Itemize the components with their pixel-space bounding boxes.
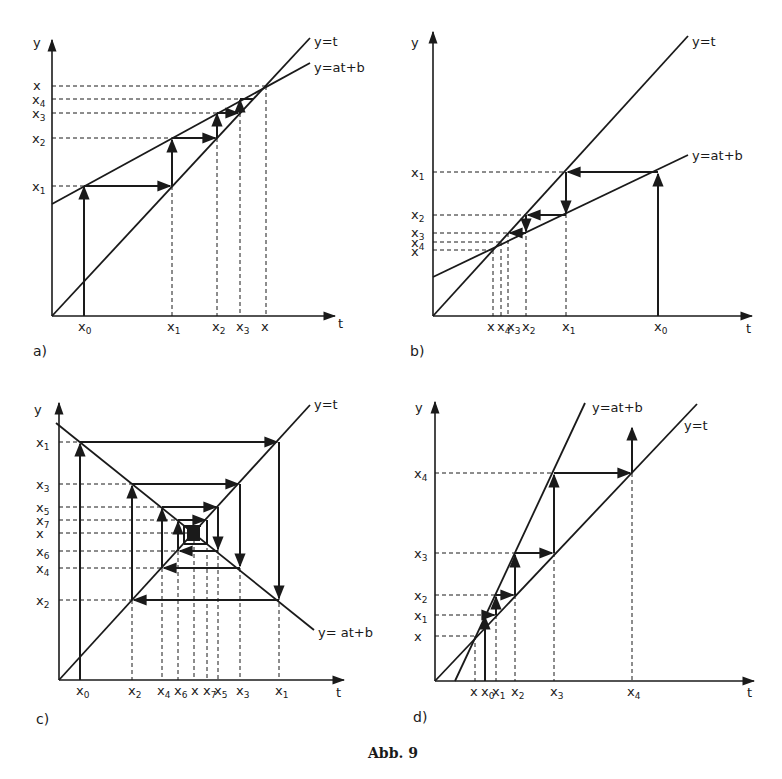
panel-a: y t y=t y=at+b x x4 x3 x2 x1 x0 x1 x2 x3… — [32, 34, 365, 359]
convergence-point — [187, 527, 200, 541]
svg-text:y: y — [34, 402, 42, 417]
line-y-equals-t — [52, 38, 310, 316]
svg-text:x4: x4 — [627, 684, 641, 701]
svg-text:x2: x2 — [212, 319, 225, 336]
y-axis-label: y — [33, 35, 41, 50]
svg-text:x: x — [191, 683, 199, 698]
svg-text:x: x — [470, 684, 478, 699]
svg-text:x: x — [414, 629, 422, 644]
svg-text:x6: x6 — [174, 683, 188, 700]
svg-text:y=at+b: y=at+b — [692, 148, 743, 163]
svg-text:x3: x3 — [507, 319, 520, 336]
svg-text:x4: x4 — [36, 561, 50, 578]
svg-text:x1: x1 — [32, 179, 45, 196]
svg-text:x4: x4 — [414, 466, 428, 483]
svg-text:x0: x0 — [76, 683, 90, 700]
svg-text:y=t: y=t — [684, 418, 708, 433]
svg-text:x6: x6 — [36, 544, 50, 561]
panel-d: y t y=at+b y=t x4 x3 x2 x1 x x x0 x1 x2 … — [413, 400, 754, 725]
panel-label-a: a) — [33, 343, 47, 359]
svg-text:y=t: y=t — [692, 34, 716, 49]
panel-label-d: d) — [413, 709, 427, 725]
svg-text:x2: x2 — [522, 319, 535, 336]
svg-text:x2: x2 — [411, 207, 424, 224]
svg-text:x3: x3 — [414, 546, 427, 563]
svg-text:x3: x3 — [236, 683, 249, 700]
panel-label-c: c) — [36, 711, 49, 727]
svg-text:x: x — [411, 244, 419, 259]
svg-text:t: t — [336, 685, 341, 700]
svg-text:x3: x3 — [36, 477, 49, 494]
svg-text:y= at+b: y= at+b — [318, 625, 373, 640]
svg-text:y=at+b: y=at+b — [592, 400, 643, 415]
svg-text:y=t: y=t — [314, 34, 338, 49]
svg-text:x: x — [261, 319, 269, 334]
svg-text:x2: x2 — [414, 588, 427, 605]
svg-text:x2: x2 — [511, 684, 524, 701]
x-axis-label: t — [338, 316, 343, 331]
svg-text:x1: x1 — [36, 435, 49, 452]
svg-text:x5: x5 — [214, 683, 227, 700]
svg-text:x1: x1 — [167, 319, 180, 336]
panel-c: y t y=t y= at+b x1 x3 x5 x7 x x6 x4 x2 x… — [34, 397, 373, 727]
svg-text:x2: x2 — [36, 593, 49, 610]
svg-text:x1: x1 — [275, 683, 288, 700]
svg-text:x1: x1 — [562, 319, 575, 336]
panel-label-b: b) — [410, 343, 424, 359]
panel-b: y t y=t y=at+b x1 x2 x3 x4 x x x4 x3 x2 … — [410, 32, 752, 359]
svg-text:x: x — [487, 319, 495, 334]
svg-text:x1: x1 — [492, 684, 505, 701]
figure-caption: Abb. 9 — [367, 745, 418, 761]
svg-text:x: x — [33, 78, 41, 93]
svg-text:x3: x3 — [550, 684, 563, 701]
svg-text:x2: x2 — [32, 131, 45, 148]
svg-text:y: y — [411, 35, 419, 50]
svg-text:y: y — [415, 400, 423, 415]
svg-text:x4: x4 — [157, 683, 171, 700]
svg-text:y=t: y=t — [314, 397, 338, 412]
svg-text:t: t — [746, 321, 751, 336]
line-y-equals-t — [433, 36, 688, 316]
figure-canvas: y t y=t y=at+b x x4 x3 x2 x1 x0 x1 x2 x3… — [0, 0, 782, 779]
svg-text:x1: x1 — [411, 165, 424, 182]
svg-text:x0: x0 — [654, 319, 668, 336]
svg-text:x: x — [36, 526, 44, 541]
svg-text:x0: x0 — [78, 319, 92, 336]
svg-text:x3: x3 — [236, 319, 249, 336]
svg-text:x1: x1 — [414, 608, 427, 625]
svg-text:x2: x2 — [128, 683, 141, 700]
line-y-equals-at-plus-b — [52, 63, 310, 204]
svg-text:y=at+b: y=at+b — [314, 60, 365, 75]
svg-text:t: t — [747, 685, 752, 700]
